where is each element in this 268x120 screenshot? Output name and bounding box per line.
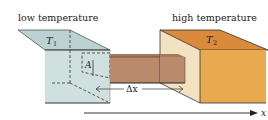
x-axis: x <box>84 108 266 118</box>
t2-subscript: 2 <box>213 39 217 47</box>
delta-x-label: Δx <box>126 84 138 94</box>
area-label: A <box>84 60 92 70</box>
x-axis-arrowhead <box>250 110 258 116</box>
heat-conduction-diagram: Δx x low temperature high temperature T … <box>0 0 268 120</box>
x-axis-label: x <box>261 108 266 118</box>
high-temperature-label: high temperature <box>172 12 257 23</box>
hot-block-front-face <box>200 50 266 103</box>
t1-subscript: 1 <box>53 40 57 48</box>
cold-block-top-face <box>18 30 110 50</box>
low-temperature-label: low temperature <box>18 12 99 23</box>
cold-block <box>18 30 110 103</box>
cold-block-front-face <box>45 50 110 103</box>
